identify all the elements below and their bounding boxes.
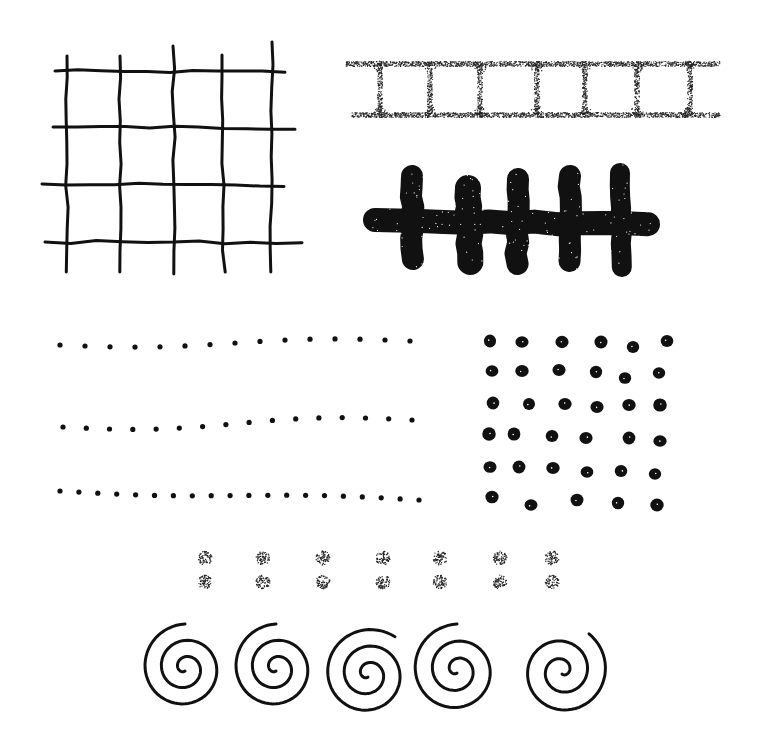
small-dot bbox=[232, 340, 237, 345]
small-dot bbox=[416, 497, 421, 502]
stippled-dot-top bbox=[493, 550, 508, 565]
large-dot-grid bbox=[482, 334, 673, 511]
small-dot bbox=[171, 493, 176, 498]
small-dot bbox=[207, 342, 212, 347]
ladder-top-rail bbox=[346, 61, 721, 67]
large-dot bbox=[515, 365, 528, 377]
spiral bbox=[236, 624, 308, 704]
small-dot bbox=[200, 424, 205, 429]
small-dot bbox=[322, 493, 327, 498]
small-dot bbox=[293, 416, 298, 421]
large-dot bbox=[508, 427, 521, 440]
small-dot bbox=[84, 426, 89, 431]
grid-horizontal-line bbox=[42, 183, 284, 186]
large-dot bbox=[482, 427, 496, 440]
grid-horizontal-line bbox=[45, 241, 302, 244]
ladder-rung bbox=[534, 64, 540, 116]
grid-vertical-line bbox=[222, 55, 226, 272]
bold-cross-hatch-bar bbox=[372, 161, 652, 280]
large-dot bbox=[558, 398, 571, 410]
hand-drawn-grid bbox=[42, 42, 302, 274]
small-dot bbox=[247, 420, 252, 425]
small-dot bbox=[246, 493, 251, 498]
grid-vertical-line bbox=[172, 46, 175, 274]
small-dot bbox=[341, 494, 346, 499]
large-dot bbox=[486, 365, 499, 377]
small-dot bbox=[270, 418, 275, 423]
stippled-dot-bottom bbox=[316, 575, 330, 590]
hatch-vertical-post bbox=[411, 176, 413, 259]
large-dot bbox=[523, 398, 535, 410]
small-dot bbox=[282, 338, 287, 343]
large-dot bbox=[525, 499, 538, 510]
paired-stippled-dots bbox=[198, 550, 560, 589]
small-dot bbox=[386, 416, 391, 421]
small-dot bbox=[357, 337, 362, 342]
small-dot bbox=[177, 426, 182, 431]
spiral bbox=[328, 630, 400, 711]
small-dot bbox=[132, 345, 137, 350]
small-dot bbox=[307, 337, 312, 342]
small-dot bbox=[57, 488, 62, 493]
large-dot bbox=[581, 466, 594, 477]
large-dot bbox=[513, 461, 526, 474]
small-dot bbox=[265, 493, 270, 498]
large-dot bbox=[615, 465, 628, 477]
small-dot bbox=[303, 493, 308, 498]
small-dot bbox=[332, 336, 337, 341]
small-dot bbox=[95, 491, 100, 496]
large-dot bbox=[619, 372, 631, 384]
stippled-dot-bottom bbox=[493, 574, 507, 589]
small-dot bbox=[360, 494, 365, 499]
small-dot bbox=[182, 343, 187, 348]
small-dot bbox=[257, 339, 262, 344]
stippled-dot-top bbox=[376, 551, 390, 566]
pattern-illustration bbox=[0, 0, 758, 740]
stippled-dot-bottom bbox=[545, 575, 560, 589]
stippled-ladder bbox=[346, 61, 721, 119]
spiral bbox=[528, 634, 606, 710]
stippled-dot-top bbox=[316, 550, 331, 565]
small-dot bbox=[130, 427, 135, 432]
small-dot bbox=[379, 495, 384, 500]
large-dot bbox=[484, 334, 496, 347]
large-dot bbox=[661, 335, 674, 347]
stippled-dot-bottom bbox=[198, 575, 211, 589]
large-dot bbox=[546, 430, 559, 442]
small-dot bbox=[382, 337, 387, 342]
small-dot bbox=[154, 427, 159, 432]
small-dot bbox=[409, 417, 414, 422]
hatch-vertical-post bbox=[467, 188, 470, 262]
small-dot bbox=[190, 493, 195, 498]
small-dot bbox=[398, 496, 403, 501]
ladder-rung bbox=[477, 64, 483, 115]
hatch-vertical-post bbox=[569, 176, 571, 261]
spiral bbox=[415, 624, 490, 708]
small-dot bbox=[157, 344, 162, 349]
hatch-vertical-post bbox=[516, 179, 519, 264]
large-dot bbox=[627, 341, 639, 353]
large-dot bbox=[653, 398, 667, 411]
small-dot bbox=[57, 342, 62, 347]
spiral bbox=[145, 624, 217, 704]
small-dot bbox=[133, 492, 138, 497]
grid-vertical-line bbox=[119, 56, 121, 272]
small-dot bbox=[152, 493, 157, 498]
small-dot-rows bbox=[57, 336, 421, 502]
grid-horizontal-line bbox=[55, 70, 285, 73]
spiral-row bbox=[145, 624, 605, 710]
small-dot bbox=[76, 490, 81, 495]
hatch-vertical-post bbox=[620, 173, 622, 267]
stippled-dot-top bbox=[545, 551, 560, 566]
stippled-dot-bottom bbox=[376, 576, 391, 590]
large-dot bbox=[546, 462, 559, 474]
large-dot bbox=[552, 364, 565, 376]
small-dot bbox=[209, 493, 214, 498]
small-dot bbox=[228, 493, 233, 498]
large-dot bbox=[579, 432, 592, 444]
small-dot bbox=[107, 344, 112, 349]
small-dot bbox=[363, 415, 368, 420]
small-dot bbox=[316, 415, 321, 420]
small-dot bbox=[60, 424, 65, 429]
small-dot bbox=[340, 415, 345, 420]
